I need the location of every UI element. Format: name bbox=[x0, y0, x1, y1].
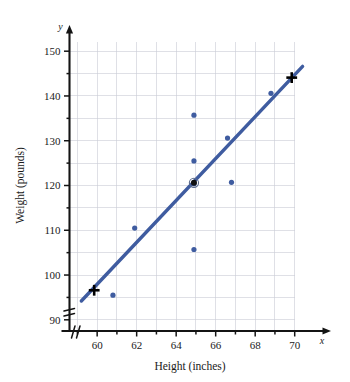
tick-label-layer: 90100110120130140150606264666870 bbox=[44, 45, 301, 350]
data-point bbox=[225, 135, 230, 140]
data-point bbox=[132, 225, 137, 230]
y-axis-tick-label: 90 bbox=[50, 314, 62, 326]
y-axis-tick-label: 150 bbox=[44, 45, 61, 57]
data-point bbox=[110, 293, 115, 298]
data-point bbox=[191, 158, 196, 163]
x-axis-variable-label: x bbox=[319, 335, 325, 346]
x-axis-title: Height (inches) bbox=[154, 360, 225, 373]
cross-marker bbox=[89, 285, 100, 296]
x-axis-tick-label: 66 bbox=[210, 339, 222, 351]
x-axis-tick-label: 70 bbox=[289, 339, 301, 351]
y-axis-tick-label: 110 bbox=[44, 224, 61, 236]
y-axis-arrowhead bbox=[66, 25, 73, 34]
y-axis-tick-label: 140 bbox=[44, 90, 61, 102]
data-point bbox=[191, 113, 196, 118]
scatter-plot-figure: 90100110120130140150606264666870 yxHeigh… bbox=[0, 0, 350, 382]
x-axis-arrowhead bbox=[323, 327, 332, 334]
grid-layer bbox=[70, 42, 295, 331]
y-axis-variable-label: y bbox=[57, 21, 63, 32]
data-point bbox=[229, 180, 234, 185]
data-series-layer bbox=[81, 66, 302, 301]
y-axis-tick-label: 100 bbox=[44, 269, 61, 281]
data-point bbox=[268, 91, 273, 96]
tick-layer bbox=[64, 51, 295, 336]
x-axis-tick-label: 62 bbox=[131, 339, 142, 351]
centroid-dot bbox=[191, 180, 197, 186]
x-axis-tick-label: 60 bbox=[92, 339, 104, 351]
data-point bbox=[191, 247, 196, 252]
x-axis-tick-label: 64 bbox=[171, 339, 183, 351]
y-axis-tick-label: 130 bbox=[44, 135, 61, 147]
height-weight-scatter-chart: 90100110120130140150606264666870 yxHeigh… bbox=[0, 0, 350, 382]
y-axis-tick-label: 120 bbox=[44, 179, 61, 191]
y-axis-title: Weight (pounds) bbox=[14, 147, 27, 224]
x-axis-tick-label: 68 bbox=[250, 339, 262, 351]
